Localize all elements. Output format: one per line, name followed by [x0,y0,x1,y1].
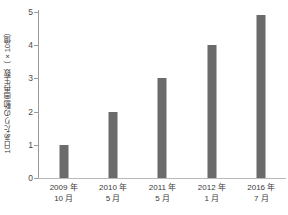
x-tick-label-month: 5 月 [138,193,187,204]
x-tick-label: 2016 年 7 月 [237,182,286,204]
x-tick-label: 2009 年 10 月 [39,182,88,204]
y-axis-title: 1日あたりの動画再生数（×10億） [0,0,16,182]
x-tick-label: 2012 年 1 月 [187,182,236,204]
x-tick-label-year: 2010 年 [88,182,137,193]
bar-2016-07 [257,15,266,178]
x-tick-label-month: 5 月 [88,193,137,204]
x-tick-label-year: 2016 年 [237,182,286,193]
bar-2009-10 [59,145,68,178]
y-axis-title-text: 1日あたりの動画再生数（×10億） [4,28,12,154]
x-tick-label-month: 7 月 [237,193,286,204]
bar-chart: 1日あたりの動画再生数（×10億） 5 4 3 2 1 0 [0,0,288,215]
x-tick-label: 2011 年 5 月 [138,182,187,204]
y-tick-label: 5 [19,8,33,17]
x-tick-label-month: 1 月 [187,193,236,204]
y-tick-label: 2 [19,108,33,117]
y-tick-label: 0 [19,174,33,183]
bar-2010-05 [109,112,118,178]
x-axis-line [38,178,286,179]
bar-slot [39,12,88,178]
x-tick-label-year: 2012 年 [187,182,236,193]
bar-slot [138,12,187,178]
x-axis-tick-labels: 2009 年 10 月 2010 年 5 月 2011 年 5 月 2012 年… [39,182,286,212]
x-tick-label: 2010 年 5 月 [88,182,137,204]
y-tick-label: 3 [19,74,33,83]
x-tick-label-year: 2009 年 [39,182,88,193]
bar-2011-05 [158,78,167,178]
y-tick-label: 4 [19,41,33,50]
x-tick-label-year: 2011 年 [138,182,187,193]
bar-slot [88,12,137,178]
bar-2012-01 [207,45,216,178]
y-axis-tick-labels: 5 4 3 2 1 0 [16,0,33,182]
bar-slot [187,12,236,178]
y-tick-label: 1 [19,141,33,150]
x-tick-label-month: 10 月 [39,193,88,204]
bar-slot [237,12,286,178]
plot-area [39,12,286,178]
